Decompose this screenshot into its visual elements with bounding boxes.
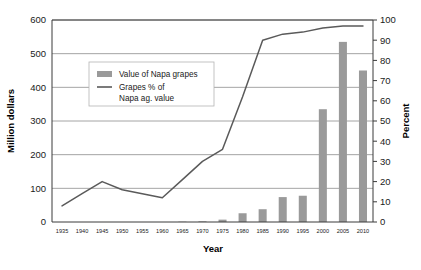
- y-tick-label: 300: [30, 115, 46, 126]
- y2-axis-label: Percent: [400, 103, 411, 139]
- bar: [239, 213, 247, 222]
- x-tick-label: 2000: [317, 228, 329, 234]
- trend-line: [62, 26, 363, 206]
- left-axis-ticks: 0100200300400500600: [30, 14, 46, 227]
- x-tick-label: 1995: [297, 228, 309, 234]
- grape-value-chart: 0100200300400500600 01020304050607080901…: [0, 0, 421, 270]
- y2-tick-label: 60: [380, 95, 391, 106]
- x-tick-label: 1965: [176, 228, 188, 234]
- x-tick-label: 1950: [116, 228, 128, 234]
- y2-tick-label: 70: [380, 75, 391, 86]
- x-axis-label: Year: [203, 243, 223, 254]
- y2-tick-label: 10: [380, 196, 391, 207]
- x-tick-label: 1945: [96, 228, 108, 234]
- y-tick-label: 400: [30, 82, 46, 93]
- y2-tick-label: 50: [380, 115, 391, 126]
- right-axis-ticks: 0102030405060708090100: [373, 14, 396, 227]
- y2-tick-label: 80: [380, 55, 391, 66]
- bar: [259, 209, 267, 222]
- y-axis-label: Million dollars: [5, 89, 16, 153]
- y-tick-label: 100: [30, 183, 46, 194]
- y2-tick-label: 40: [380, 136, 391, 147]
- y2-tick-label: 20: [380, 176, 391, 187]
- bar: [359, 71, 367, 223]
- x-tick-label: 1960: [156, 228, 168, 234]
- x-tick-label: 1990: [276, 228, 288, 234]
- y2-tick-label: 100: [380, 14, 396, 25]
- y-tick-label: 0: [41, 216, 46, 227]
- bar: [279, 197, 287, 222]
- y-tick-label: 600: [30, 14, 46, 25]
- x-tick-label: 1940: [76, 228, 88, 234]
- legend-label-bar: Value of Napa grapes: [119, 70, 198, 79]
- x-tick-label: 1970: [196, 228, 208, 234]
- x-tick-label: 1935: [56, 228, 68, 234]
- bar: [319, 109, 327, 222]
- x-tick-label: 1985: [256, 228, 268, 234]
- legend-label-line-2: Napa ag. value: [119, 94, 175, 103]
- chart-container: 0100200300400500600 01020304050607080901…: [0, 0, 421, 270]
- x-tick-label: 2005: [337, 228, 349, 234]
- y2-tick-label: 90: [380, 35, 391, 46]
- y-tick-label: 500: [30, 48, 46, 59]
- x-tick-label: 1980: [236, 228, 248, 234]
- bar: [299, 196, 307, 222]
- y2-tick-label: 30: [380, 156, 391, 167]
- x-axis-ticks: 1935194019451950195519601965197019751980…: [56, 228, 369, 234]
- bar: [339, 42, 347, 222]
- x-tick-label: 2010: [357, 228, 369, 234]
- legend-bar-swatch: [97, 71, 112, 77]
- y-tick-label: 200: [30, 149, 46, 160]
- x-tick-label: 1955: [136, 228, 148, 234]
- y2-tick-label: 0: [380, 216, 385, 227]
- x-tick-label: 1975: [216, 228, 228, 234]
- chart-legend: Value of Napa grapesGrapes % ofNapa ag. …: [89, 62, 214, 106]
- line-series: [62, 26, 363, 206]
- legend-label-line: Grapes % of: [119, 83, 165, 92]
